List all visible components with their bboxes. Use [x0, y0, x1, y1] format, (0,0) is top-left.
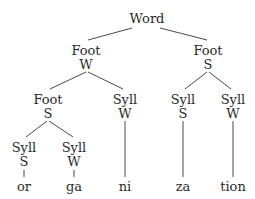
node-syll-za-cat: Syll: [171, 92, 196, 107]
node-syll-tion-stress: W: [226, 106, 239, 121]
edge-footsleft-sylls: [26, 121, 47, 137]
node-word: Word: [130, 11, 165, 26]
node-syll-ni-cat: Syll: [113, 92, 138, 107]
leaf-ni: ni: [119, 179, 132, 194]
edge-word-foot-s: [160, 28, 207, 40]
node-syll-or-stress: S: [20, 154, 29, 169]
node-syll-or-cat: Syll: [12, 140, 37, 155]
node-foot-w-cat: Foot: [71, 43, 100, 58]
edge-foots-sylls: [185, 72, 207, 89]
leaf-ga: ga: [66, 179, 82, 194]
node-syll-tion-cat: Syll: [221, 92, 246, 107]
edge-footsleft-syllw: [49, 121, 73, 137]
node-foot-s-right-cat: Foot: [193, 43, 222, 58]
edge-foots-syllw: [209, 72, 231, 89]
leaf-or: or: [17, 179, 31, 194]
leaf-za: za: [176, 179, 191, 194]
node-syll-ga-stress: W: [67, 154, 80, 169]
node-foot-s-right-stress: S: [204, 57, 213, 72]
edge-word-foot-w: [88, 28, 132, 40]
node-foot-s-left-stress: S: [44, 106, 53, 121]
node-foot-w-stress: W: [79, 57, 92, 72]
node-syll-za-stress: S: [179, 106, 188, 121]
node-syll-ga-cat: Syll: [62, 140, 87, 155]
leaf-tion: tion: [220, 179, 246, 194]
node-syll-ni-stress: W: [118, 106, 131, 121]
node-foot-s-left-cat: Foot: [33, 92, 62, 107]
edge-footw-foots: [50, 72, 86, 89]
edge-footw-syllw: [88, 72, 123, 89]
